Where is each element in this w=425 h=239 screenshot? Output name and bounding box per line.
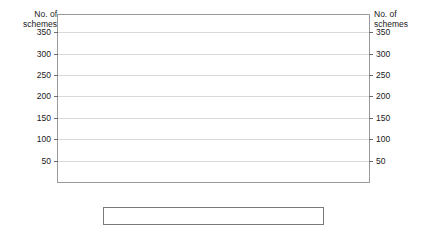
y-axis-tick-label-left: 100 — [11, 135, 51, 144]
chart-legend — [103, 207, 324, 225]
gridline — [58, 139, 369, 140]
y-axis-tick-label-right: 100 — [376, 135, 416, 144]
y-axis-title-right-line1: No. of — [374, 9, 397, 19]
gridline — [58, 75, 369, 76]
gridline — [58, 118, 369, 119]
y-axis-tick-left — [54, 161, 58, 162]
gridline — [58, 32, 369, 33]
y-axis-tick-right — [369, 118, 373, 119]
y-axis-title-left: No. of schemes — [13, 9, 57, 29]
y-axis-tick-left — [54, 75, 58, 76]
gridline — [58, 96, 369, 97]
y-axis-tick-label-left: 300 — [11, 50, 51, 59]
y-axis-tick-label-right: 50 — [376, 157, 416, 166]
y-axis-tick-label-right: 200 — [376, 92, 416, 101]
y-axis-tick-right — [369, 54, 373, 55]
y-axis-tick-left — [54, 54, 58, 55]
y-axis-tick-left — [54, 118, 58, 119]
y-axis-title-left-line1: No. of — [34, 9, 57, 19]
y-axis-tick-right — [369, 75, 373, 76]
plot-area: 5050100100150150200200250250300300350350 — [57, 14, 370, 183]
y-axis-tick-label-right: 250 — [376, 71, 416, 80]
y-axis-tick-right — [369, 32, 373, 33]
y-axis-tick-left — [54, 139, 58, 140]
y-axis-tick-label-left: 250 — [11, 71, 51, 80]
y-axis-title-right: No. of schemes — [374, 9, 424, 29]
y-axis-tick-right — [369, 96, 373, 97]
y-axis-tick-label-left: 200 — [11, 92, 51, 101]
y-axis-tick-label-right: 150 — [376, 114, 416, 123]
y-axis-tick-label-right: 350 — [376, 28, 416, 37]
gridline — [58, 161, 369, 162]
bar-chart: No. of schemes No. of schemes 5050100100… — [0, 0, 425, 239]
gridline — [58, 54, 369, 55]
y-axis-tick-right — [369, 139, 373, 140]
y-axis-tick-label-right: 300 — [376, 50, 416, 59]
y-axis-tick-right — [369, 161, 373, 162]
y-axis-tick-left — [54, 32, 58, 33]
y-axis-tick-label-left: 50 — [11, 157, 51, 166]
y-axis-tick-label-left: 150 — [11, 114, 51, 123]
y-axis-tick-left — [54, 96, 58, 97]
y-axis-tick-label-left: 350 — [11, 28, 51, 37]
plot-inner: 5050100100150150200200250250300300350350 — [58, 15, 369, 182]
